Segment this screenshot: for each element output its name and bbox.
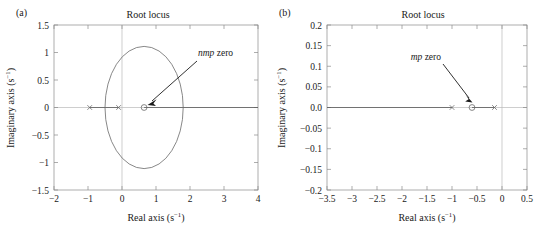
y-tick-label: −0.05 [300, 124, 322, 134]
panel-a-y-tick-labels: 1.5 1 0.5 0 −0.5 −1 −1.5 [32, 21, 49, 196]
y-tick-label: −0.1 [305, 144, 322, 154]
y-tick-label: 1 [44, 48, 49, 58]
y-tick-label: −0.2 [305, 186, 322, 196]
y-tick-label: 1.5 [37, 21, 49, 31]
y-tick-label: 0.2 [310, 21, 322, 31]
x-tick-label: −2 [397, 194, 407, 204]
panel-a-annotation-rest: zero [214, 48, 233, 58]
x-tick-label: −0.5 [468, 194, 485, 204]
x-tick-label: 0 [500, 194, 505, 204]
x-tick-label: 0 [120, 194, 125, 204]
y-tick-label: 0.15 [305, 41, 322, 51]
x-tick-label: −3.5 [318, 194, 335, 204]
x-tick-label: −2.5 [368, 194, 385, 204]
y-tick-label: −1 [39, 158, 49, 168]
y-tick-label: 0.05 [305, 82, 322, 92]
panel-a-yaxis-title: Imaginary axis (s−1) [4, 68, 17, 148]
panel-a-annotation-arrow-line [152, 61, 197, 101]
y-tick-label: −1.5 [32, 186, 49, 196]
x-tick-label: 3 [222, 194, 227, 204]
x-tick-label: −1 [447, 194, 457, 204]
x-tick-label: 2 [188, 194, 193, 204]
panel-b-y-tick-labels: 0.2 0.15 0.1 0.05 0.0 −0.05 −0.1 −0.15 −… [300, 21, 322, 196]
panel-b-annotation-rest: zero [422, 52, 441, 62]
x-tick-label: 1 [154, 194, 159, 204]
panel-a-x-tick-labels: −2 −1 0 1 2 3 4 [49, 194, 261, 204]
panel-b-label: (b) [279, 7, 291, 19]
panel-b: (b) Root locus [271, 0, 543, 229]
x-tick-label: −1.5 [418, 194, 435, 204]
root-locus-figure: (a) Root locus [0, 0, 543, 229]
panel-a-label: (a) [16, 7, 27, 19]
panel-a-annotation-label: nmp zero [198, 48, 233, 58]
panel-b-x-tick-labels: −3.5 −3 −2.5 −2 −1.5 −1 −0.5 0 0.5 [318, 194, 533, 204]
y-tick-label: 0.0 [310, 103, 322, 113]
panel-b-title: Root locus [401, 9, 444, 20]
panel-b-annotation-arrow-line [443, 64, 469, 98]
y-tick-label: 0 [44, 103, 49, 113]
y-tick-label: 0.1 [310, 62, 322, 72]
panel-b-annotation-label: mp zero [411, 52, 442, 62]
y-tick-label: 0.5 [37, 76, 49, 86]
panel-b-plot: (b) Root locus [271, 0, 543, 229]
x-tick-label: −1 [83, 194, 93, 204]
y-tick-label: −0.15 [300, 165, 322, 175]
panel-a-plot: (a) Root locus [0, 0, 272, 229]
x-tick-label: 0.5 [521, 194, 533, 204]
panel-a-title: Root locus [126, 9, 169, 20]
panel-b-xaxis-title: Real axis (s−1) [398, 211, 455, 224]
x-tick-label: −2 [49, 194, 59, 204]
panel-a-annotation-arrow-head [148, 99, 157, 106]
panel-a: (a) Root locus [0, 0, 272, 229]
panel-a-annotation-emphasis: nmp [198, 48, 215, 58]
panel-b-yaxis-title: Imaginary axis (s−1) [275, 68, 288, 148]
x-tick-label: 4 [256, 194, 261, 204]
x-tick-label: −3 [347, 194, 357, 204]
panel-a-xaxis-title: Real axis (s−1) [127, 211, 184, 224]
panel-b-annotation-emphasis: mp [411, 52, 423, 62]
y-tick-label: −0.5 [32, 131, 49, 141]
panel-b-annotation-arrow-head [465, 95, 472, 103]
